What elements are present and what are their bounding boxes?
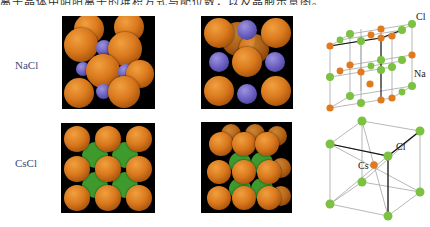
cscl-space-filling-perspective bbox=[201, 122, 292, 213]
lattice-spheres bbox=[326, 20, 416, 112]
nacl-unit-cell-diagram: Cl Na bbox=[320, 10, 430, 115]
nacl-space-filling-perspective bbox=[62, 16, 155, 109]
row-label-nacl: NaCl bbox=[15, 59, 38, 71]
lattice-label-cl: Cl bbox=[396, 141, 406, 152]
row-label-cscl: CsCl bbox=[15, 157, 37, 169]
nacl-space-filling-face bbox=[201, 16, 293, 109]
lattice-label-cs: Cs bbox=[358, 160, 369, 171]
cscl-space-filling-face bbox=[61, 123, 155, 213]
cscl-unit-cell-diagram: Cl Cs bbox=[320, 116, 430, 221]
header-text: 离子晶体中阴阳离子的堆积方式与配位数，以及晶胞示意图。 bbox=[0, 0, 430, 5]
lattice-label-cl: Cl bbox=[416, 11, 426, 22]
lattice-label-na: Na bbox=[414, 68, 426, 79]
